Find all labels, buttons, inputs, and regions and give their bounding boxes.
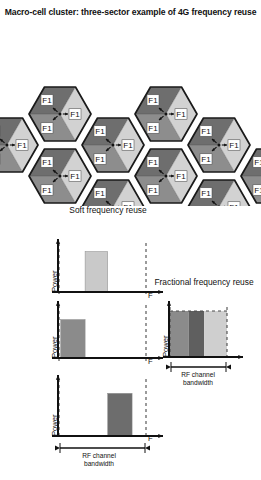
macro-cell: F1F1F1	[82, 180, 144, 206]
soft-chart-1-y-axis-arrowhead	[56, 239, 60, 244]
base-station-dot	[59, 175, 62, 178]
sector-label-right: F1	[176, 172, 186, 181]
soft-chart-3-x-axis-label: F	[148, 434, 153, 443]
sector-label-upper-left: F1	[42, 158, 52, 167]
soft-reuse-caption: Soft frequency reuse	[62, 205, 154, 216]
soft-bandwidth-line1: RF channel	[82, 452, 116, 459]
soft-bandwidth-label: RF channel bandwidth	[57, 452, 141, 468]
fractional-bandwidth-line2: bandwidth	[183, 379, 213, 386]
sector-label-right: F1	[123, 141, 133, 150]
soft-chart-1-y-axis-label: Power	[50, 270, 59, 292]
fractional-bandwidth-arrowhead-2	[226, 364, 231, 369]
soft-chart-3-y-axis-label: Power	[50, 414, 59, 436]
sector-label-lower-left: F1	[148, 186, 158, 195]
fractional-chart-x-axis-arrowhead	[238, 355, 243, 359]
soft-chart-2	[52, 301, 163, 361]
fractional-chart	[163, 301, 243, 372]
base-station-dot	[112, 144, 115, 147]
sector-label-lower-left: F1	[201, 155, 211, 164]
macro-cell: F1F1F1	[0, 118, 38, 172]
soft-chart-2-y-axis-label: Power	[50, 336, 59, 358]
soft-bandwidth-arrowhead-2	[145, 445, 150, 450]
sector-label-right: F1	[229, 203, 239, 206]
base-station-dot	[6, 144, 9, 147]
sector-label-upper-left: F1	[254, 158, 261, 167]
fractional-reuse-caption: Fractional frequency reuse	[150, 277, 258, 288]
soft-chart-2-x-axis-label: F	[148, 357, 153, 366]
sector-label-lower-left: F1	[42, 186, 52, 195]
macro-cell: F1F1F1	[29, 87, 91, 141]
sector-label-upper-left: F1	[95, 189, 105, 198]
sector-label-lower-left: F1	[95, 155, 105, 164]
soft-chart-3-y-axis-arrowhead	[56, 375, 60, 380]
fractional-chart-y-axis-arrowhead	[167, 301, 171, 306]
soft-chart-1-bar	[85, 252, 108, 292]
soft-chart-3-bar	[108, 393, 132, 436]
soft-chart-1-x-axis-label: F	[148, 291, 153, 300]
base-station-dot	[218, 144, 221, 147]
sector-label-right: F1	[229, 141, 239, 150]
soft-bandwidth-line2: bandwidth	[84, 460, 114, 467]
sector-label-upper-left: F1	[201, 127, 211, 136]
figure-canvas: Macro-cell cluster: three-sector example…	[0, 0, 261, 480]
sector-label-right: F1	[176, 110, 186, 119]
soft-chart-2-y-axis-arrowhead	[56, 301, 60, 306]
fractional-bandwidth-label: RF channel bandwidth	[160, 371, 236, 387]
sector-label-upper-left: F1	[148, 96, 158, 105]
sector-label-right: F1	[70, 172, 80, 181]
macro-cell: F1F1F1	[188, 180, 250, 206]
soft-chart-1-x-axis-arrowhead	[158, 290, 163, 294]
sector-label-right: F1	[17, 141, 27, 150]
figure-title: Macro-cell cluster: three-sector example…	[0, 6, 261, 18]
macro-cell: F1F1F1	[188, 118, 250, 172]
frac-band-3	[204, 311, 227, 357]
sector-label-upper-left: F1	[95, 127, 105, 136]
base-station-dot	[59, 113, 62, 116]
macro-cell: F1F1F1	[82, 118, 144, 172]
soft-chart-3	[52, 375, 163, 439]
sector-label-upper-left: F1	[42, 96, 52, 105]
sector-label-lower-left: F1	[148, 124, 158, 133]
soft-bandwidth-arrowhead-1	[55, 445, 60, 450]
fractional-bandwidth-arrowhead-1	[166, 364, 171, 369]
soft-chart-3-x-axis-arrowhead	[158, 434, 163, 438]
base-station-dot	[165, 113, 168, 116]
fractional-bandwidth-line1: RF channel	[181, 371, 215, 378]
sector-label-lower-left: F1	[254, 186, 261, 195]
macro-cell-cluster: F1F1F1F1F1F1F1F1F1F1F1F1F1F1F1F1F1F1F1F1…	[0, 36, 261, 206]
soft-chart-2-bar	[61, 320, 85, 358]
macro-cell: F1F1F1	[29, 149, 91, 203]
hexagon-grid-svg: F1F1F1F1F1F1F1F1F1F1F1F1F1F1F1F1F1F1F1F1…	[0, 36, 261, 206]
macro-cell: F1F1F1	[135, 87, 197, 141]
macro-cell: F1F1F1	[135, 149, 197, 203]
sector-label-lower-left: F1	[42, 124, 52, 133]
sector-label-upper-left: F1	[201, 189, 211, 198]
frac-band-1	[170, 311, 189, 357]
soft-chart-1	[52, 239, 163, 295]
base-station-dot	[165, 175, 168, 178]
sector-label-right: F1	[70, 110, 80, 119]
frac-band-2	[189, 311, 204, 357]
fractional-chart-y-axis-label: Power	[161, 335, 170, 357]
sector-label-upper-left: F1	[148, 158, 158, 167]
